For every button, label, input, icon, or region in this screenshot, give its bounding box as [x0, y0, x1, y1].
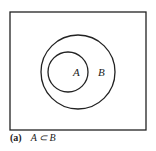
caption-label: (a) [10, 132, 22, 143]
set-b-label: B [98, 66, 105, 78]
caption-relation: A ⊂ B [31, 132, 56, 143]
venn-diagram: A B [0, 0, 156, 151]
figure-caption: (a)A ⊂ B [10, 132, 56, 143]
set-a-label: A [72, 66, 80, 78]
set-a-circle [48, 52, 88, 92]
